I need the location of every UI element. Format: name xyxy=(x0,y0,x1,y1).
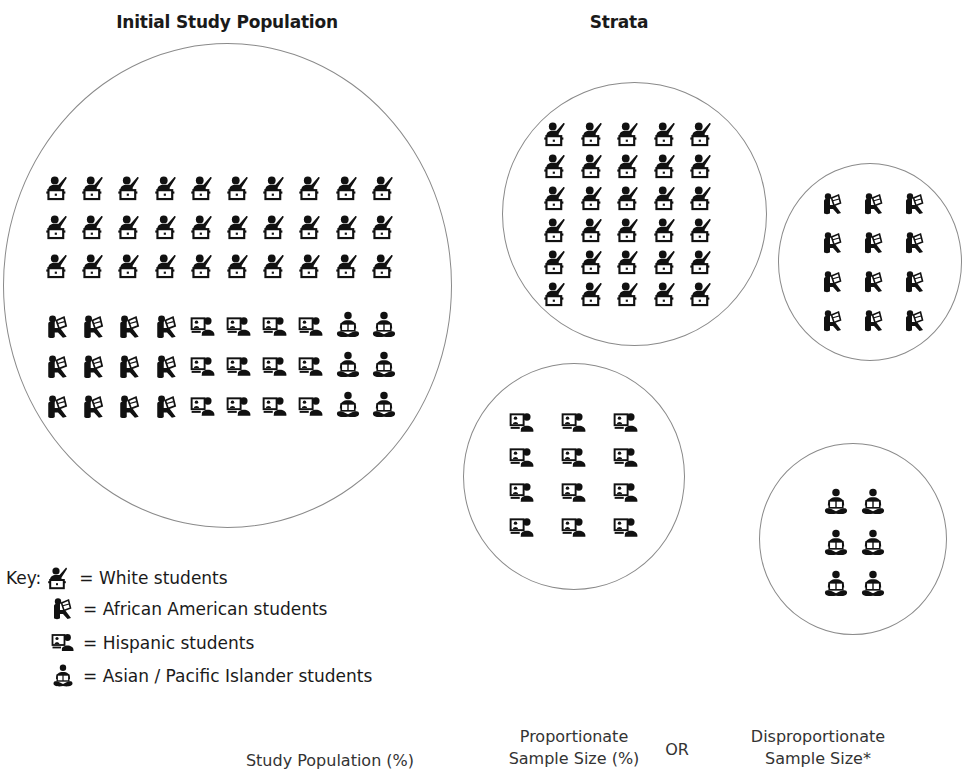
legend-label-african-american: = African American students xyxy=(83,599,327,619)
white-student-icon xyxy=(689,153,715,179)
african-american-student-icon xyxy=(821,192,845,216)
african-american-student-icon xyxy=(862,231,886,255)
white-student-icon xyxy=(616,217,642,243)
hispanic-student-icon xyxy=(298,314,324,340)
initial-population-circle xyxy=(3,43,452,528)
white-student-icon xyxy=(580,153,606,179)
white-student-icon xyxy=(262,214,288,240)
proportionate-line1: Proportionate xyxy=(509,726,640,748)
legend-row-hispanic: = Hispanic students xyxy=(51,631,254,655)
african-american-student-icon xyxy=(903,309,927,333)
white-student-icon xyxy=(653,249,679,275)
hispanic-student-icon xyxy=(190,314,216,340)
white-student-icon xyxy=(543,185,569,211)
legend-label-hispanic: = Hispanic students xyxy=(83,633,254,653)
white-student-icon xyxy=(616,185,642,211)
white-student-icon xyxy=(371,214,397,240)
legend-row-asian: = Asian / Pacific Islander students xyxy=(51,664,372,688)
hispanic-student-icon xyxy=(226,314,252,340)
white-student-icon xyxy=(190,175,216,201)
legend-row-african-american: = African American students xyxy=(51,597,327,621)
white-student-icon xyxy=(262,253,288,279)
white-student-icon xyxy=(616,281,642,307)
african-american-student-icon xyxy=(821,270,845,294)
hispanic-student-icon xyxy=(613,445,639,471)
white-student-icon xyxy=(689,249,715,275)
white-student-icon xyxy=(335,175,361,201)
or-text: OR xyxy=(665,740,689,759)
white-student-icon xyxy=(298,214,324,240)
hispanic-student-icon xyxy=(613,410,639,436)
white-student-icon xyxy=(653,217,679,243)
asian-pacific-islander-student-icon xyxy=(859,488,887,516)
white-student-icon xyxy=(653,281,679,307)
white-student-icon xyxy=(689,281,715,307)
hispanic-student-icon xyxy=(262,354,288,380)
african-american-student-icon xyxy=(81,354,107,380)
asian-pacific-islander-student-icon xyxy=(334,311,362,339)
hispanic-student-icon xyxy=(298,394,324,420)
white-student-icon xyxy=(580,249,606,275)
white-student-icon xyxy=(653,121,679,147)
hispanic-student-icon xyxy=(226,354,252,380)
asian-pacific-islander-student-icon xyxy=(370,351,398,379)
african-american-student-icon xyxy=(51,597,75,621)
hispanic-student-icon xyxy=(190,394,216,420)
african-american-student-icon xyxy=(45,354,71,380)
white-student-icon xyxy=(580,121,606,147)
white-student-icon xyxy=(689,217,715,243)
white-student-icon xyxy=(335,253,361,279)
white-student-icon xyxy=(190,214,216,240)
disproportionate-line2: Sample Size* xyxy=(751,748,885,770)
white-student-icon xyxy=(543,281,569,307)
white-student-icon xyxy=(616,249,642,275)
african-american-student-icon xyxy=(154,314,180,340)
african-american-student-icon xyxy=(45,394,71,420)
hispanic-student-icon xyxy=(561,410,587,436)
asian-pacific-islander-student-icon xyxy=(51,664,75,688)
hispanic-student-icon xyxy=(561,445,587,471)
hispanic-student-icon xyxy=(226,394,252,420)
white-student-icon xyxy=(117,175,143,201)
disproportionate-line1: Disproportionate xyxy=(751,726,885,748)
hispanic-student-icon xyxy=(262,314,288,340)
white-student-icon xyxy=(117,214,143,240)
white-student-icon xyxy=(154,175,180,201)
african-american-student-icon xyxy=(862,309,886,333)
asian-pacific-islander-student-icon xyxy=(822,529,850,557)
strata-title: Strata xyxy=(590,12,649,32)
african-american-student-icon xyxy=(862,192,886,216)
african-american-student-icon xyxy=(81,314,107,340)
asian-pacific-islander-student-icon xyxy=(370,311,398,339)
proportionate-sample-label: Proportionate Sample Size (%) xyxy=(509,726,640,770)
white-student-icon xyxy=(154,253,180,279)
african-american-student-icon xyxy=(154,354,180,380)
white-student-icon xyxy=(45,214,71,240)
hispanic-student-icon xyxy=(509,445,535,471)
white-student-icon xyxy=(543,249,569,275)
white-student-icon xyxy=(81,253,107,279)
african-american-student-icon xyxy=(903,231,927,255)
white-student-icon xyxy=(47,566,71,590)
african-american-student-icon xyxy=(154,394,180,420)
asian-pacific-islander-student-icon xyxy=(370,391,398,419)
disproportionate-sample-label: Disproportionate Sample Size* xyxy=(751,726,885,770)
white-student-icon xyxy=(371,253,397,279)
legend-prefix: Key: xyxy=(6,568,41,588)
asian-pacific-islander-student-icon xyxy=(859,570,887,598)
white-student-icon xyxy=(81,175,107,201)
white-student-icon xyxy=(371,175,397,201)
hispanic-student-icon xyxy=(51,631,75,655)
african-american-student-icon xyxy=(117,314,143,340)
hispanic-student-icon xyxy=(561,480,587,506)
white-student-icon xyxy=(45,253,71,279)
white-student-icon xyxy=(580,185,606,211)
or-label: OR xyxy=(665,739,689,761)
african-american-student-icon xyxy=(862,270,886,294)
white-student-icon xyxy=(543,217,569,243)
african-american-student-icon xyxy=(117,354,143,380)
white-student-icon xyxy=(653,185,679,211)
white-student-icon xyxy=(580,281,606,307)
asian-pacific-islander-student-icon xyxy=(334,351,362,379)
asian-pacific-islander-student-icon xyxy=(334,391,362,419)
